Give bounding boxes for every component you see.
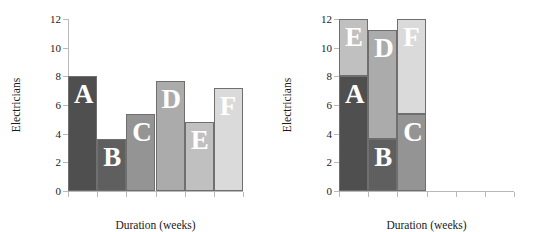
plot-area-left: Electricians Duration (weeks) 024681012A… — [68, 19, 243, 191]
y-ticklabel-left-10: 10 — [50, 42, 61, 53]
y-ticklabel-right-2: 2 — [327, 157, 333, 168]
plot-area-right: Electricians Duration (weeks) 024681012A… — [339, 19, 514, 191]
x-tick-right-3 — [427, 192, 428, 197]
bar-label-left-E: E — [191, 127, 209, 154]
bar-right-B: B — [368, 139, 397, 191]
x-axis-title-right: Duration (weeks) — [339, 219, 514, 231]
x-tick-left-3 — [156, 192, 157, 197]
bar-left-C: C — [126, 114, 155, 191]
bar-left-B: B — [97, 139, 126, 191]
bar-label-left-D: D — [162, 86, 182, 113]
y-ticklabel-left-6: 6 — [56, 100, 62, 111]
bar-label-left-B: B — [103, 144, 121, 171]
x-tick-right-6 — [514, 192, 515, 197]
x-tick-left-6 — [243, 192, 244, 197]
x-tick-right-2 — [397, 192, 398, 197]
y-axis-title-right: Electricians — [281, 78, 293, 132]
bar-label-right-D: D — [374, 35, 394, 62]
y-ticklabel-left-0: 0 — [56, 186, 62, 197]
x-axis-title-left: Duration (weeks) — [68, 219, 243, 231]
bar-left-D: D — [156, 81, 185, 191]
x-tick-right-0 — [339, 192, 340, 197]
figure-two-bar-charts: Electricians Duration (weeks) 024681012A… — [0, 0, 543, 232]
x-tick-left-4 — [185, 192, 186, 197]
y-ticklabel-left-8: 8 — [56, 71, 62, 82]
bar-right-C: C — [397, 114, 426, 191]
bar-right-D: D — [368, 30, 397, 139]
x-tick-left-0 — [68, 192, 69, 197]
y-axis-title-left: Electricians — [10, 78, 22, 132]
x-tick-left-1 — [97, 192, 98, 197]
bar-right-E: E — [339, 19, 368, 76]
bar-label-left-C: C — [132, 119, 152, 146]
y-ticklabel-right-10: 10 — [321, 42, 332, 53]
x-tick-right-5 — [485, 192, 486, 197]
y-ticklabel-left-2: 2 — [56, 157, 62, 168]
bar-label-right-C: C — [403, 119, 423, 146]
y-tick-left-12 — [63, 19, 68, 20]
x-tick-left-2 — [126, 192, 127, 197]
chart-left-ungrouped-bars: Electricians Duration (weeks) 024681012A… — [0, 0, 272, 232]
y-ticklabel-right-0: 0 — [327, 186, 333, 197]
bar-label-right-B: B — [374, 144, 392, 171]
y-ticklabel-right-8: 8 — [327, 71, 333, 82]
bar-label-right-F: F — [403, 24, 420, 51]
x-tick-left-5 — [214, 192, 215, 197]
y-ticklabel-right-6: 6 — [327, 100, 333, 111]
bar-right-A: A — [339, 76, 368, 191]
y-tick-left-10 — [63, 48, 68, 49]
bar-label-right-E: E — [345, 24, 363, 51]
y-ticklabel-left-12: 12 — [50, 14, 61, 25]
bar-label-left-A: A — [74, 81, 94, 108]
bar-label-left-F: F — [220, 93, 237, 120]
x-tick-right-4 — [456, 192, 457, 197]
chart-right-stacked-bars: Electricians Duration (weeks) 024681012A… — [271, 0, 543, 232]
y-ticklabel-left-4: 4 — [56, 128, 62, 139]
bar-left-E: E — [185, 122, 214, 191]
y-ticklabel-right-4: 4 — [327, 128, 333, 139]
bar-label-right-A: A — [345, 81, 365, 108]
y-ticklabel-right-12: 12 — [321, 14, 332, 25]
x-tick-right-1 — [368, 192, 369, 197]
bar-left-F: F — [214, 88, 243, 191]
bar-right-F: F — [397, 19, 426, 114]
bar-left-A: A — [68, 76, 97, 191]
